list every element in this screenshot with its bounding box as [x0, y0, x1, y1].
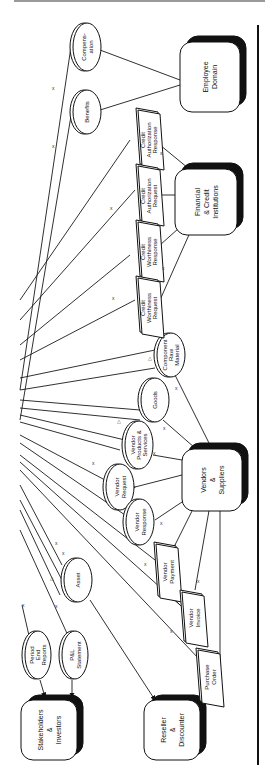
ellipse-label: Asset: [75, 572, 81, 587]
cross-marker: x: [163, 425, 166, 431]
document-label: Request: [152, 296, 158, 319]
entity-label: Reseller: [160, 716, 167, 742]
entity-label: &: [209, 477, 216, 482]
entity-label: Domain: [211, 65, 218, 89]
cross-marker: x: [62, 550, 65, 556]
ellipse-vendor-response[interactable]: Vendor Response: [123, 499, 154, 545]
document-label: Payment: [169, 560, 175, 584]
ellipse-label: Services: [142, 433, 148, 456]
ellipse-component-raw-material[interactable]: Component Raw Material: [154, 333, 185, 377]
ellipse-pl-statement[interactable]: P&L Statement: [59, 631, 88, 679]
entity-label: Stakeholders: [37, 709, 44, 750]
entity-label: Financial: [194, 188, 201, 216]
ellipse-label: Compens-: [81, 33, 87, 61]
cross-marker: x: [175, 385, 178, 391]
entity-reseller-discounter[interactable]: Reseller & Discounter: [144, 695, 206, 760]
entity-label: Vendors: [200, 467, 207, 493]
ellipse-label: P&L: [69, 649, 75, 661]
entity-label: Discounter: [178, 713, 185, 747]
ellipse-label: Request: [121, 475, 127, 498]
cross-marker: x: [144, 561, 147, 567]
entity-label: Investors: [55, 715, 62, 744]
document-vendor-payment[interactable]: Vendor Payment: [154, 542, 182, 602]
entity-label: &: [46, 727, 53, 732]
entity-financial-credit-institutions[interactable]: Financial & Credit Institutions: [175, 163, 243, 235]
entity-vendors-suppliers[interactable]: Vendors & Suppliers: [182, 443, 248, 511]
data-flow-diagram: Employee Domain Financial & Credit Insti…: [0, 0, 265, 770]
entity-label: Employee: [202, 61, 210, 92]
ellipse-goods[interactable]: Goods: [138, 378, 169, 422]
cross-marker: x: [22, 602, 25, 608]
ellipse-label: Material: [174, 344, 180, 365]
triangle-marker: △: [148, 355, 152, 361]
ellipse-label: Goods: [152, 391, 158, 409]
ellipse-compensation[interactable]: Compens- ation: [70, 23, 101, 71]
cross-marker: x: [55, 603, 58, 609]
ellipse-label: Vendor: [134, 512, 140, 531]
document-purchase-order[interactable]: Purchase Order: [196, 648, 224, 707]
document-credit-worthiness-response[interactable]: Credit Worthiness Response: [136, 220, 164, 282]
cross-marker: x: [92, 460, 95, 466]
document-label: Invoice: [195, 608, 201, 628]
document-credit-worthiness-request[interactable]: Credit Worthiness Request: [136, 276, 164, 338]
ellipse-label: Reports: [41, 644, 47, 665]
cross-marker: x: [110, 205, 113, 211]
document-label: Purchase: [204, 664, 210, 690]
entity-label: & Credit: [203, 189, 210, 214]
entity-label: Institutions: [212, 185, 219, 219]
document-label: Request: [152, 184, 158, 207]
ellipse-label: Vendor: [114, 477, 120, 496]
document-label: Vendor: [162, 562, 168, 581]
entity-employee-domain[interactable]: Employee Domain: [180, 36, 246, 112]
ellipse-asset[interactable]: Asset: [61, 558, 92, 602]
document-label: Response: [152, 238, 158, 266]
triangle-marker: △: [117, 418, 121, 424]
cross-marker: x: [162, 265, 165, 271]
ellipse-period-end-reports[interactable]: Period End Reports: [22, 631, 51, 679]
cross-marker: x: [55, 540, 58, 546]
entity-label: &: [169, 727, 176, 732]
document-credit-authorization-request[interactable]: Credit Authorization Request: [136, 164, 164, 226]
document-label: Response: [152, 126, 158, 154]
ellipse-benefits[interactable]: Benefits: [70, 90, 101, 134]
cross-marker: x: [52, 143, 55, 149]
document-label: Vendor: [188, 608, 194, 627]
cross-marker: x: [52, 85, 55, 91]
ellipse-label: Statement: [76, 641, 82, 669]
ellipse-vendor-products-services[interactable]: Vendor Products & Services: [122, 421, 153, 469]
cross-marker: x: [197, 578, 200, 584]
ellipse-label: Response: [141, 508, 147, 536]
cross-marker: x: [160, 520, 163, 526]
entity-stakeholders-investors[interactable]: Stakeholders & Investors: [21, 695, 83, 760]
triangle-marker: △: [50, 575, 54, 581]
document-vendor-invoice[interactable]: Vendor Invoice: [180, 590, 208, 647]
document-label: Order: [211, 669, 217, 684]
ellipse-label: ation: [88, 40, 94, 53]
entity-label: Suppliers: [218, 465, 226, 495]
document-credit-authorization-response[interactable]: Credit Authorization Response: [136, 108, 164, 170]
cross-marker: x: [112, 295, 115, 301]
ellipse-label: Benefits: [84, 101, 90, 123]
